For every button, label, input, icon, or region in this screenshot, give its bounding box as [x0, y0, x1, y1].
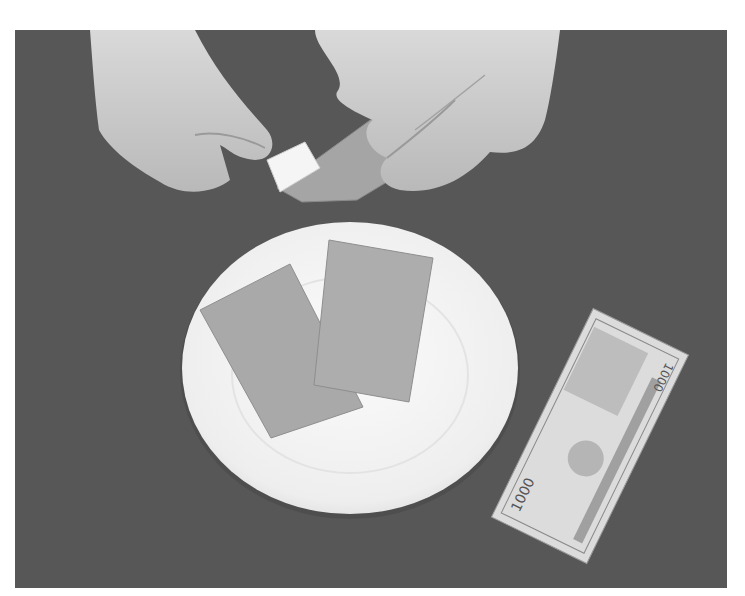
- scene-illustration: 1000 1000: [15, 30, 727, 588]
- photo: 1000 1000 Black-and-white photograph: tw…: [15, 30, 727, 588]
- left-hand: [90, 30, 272, 192]
- banknote: 1000 1000: [492, 309, 689, 564]
